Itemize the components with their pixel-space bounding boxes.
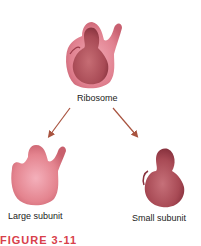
arrow-right-icon [113, 108, 136, 135]
arrow-left-icon [50, 108, 70, 135]
large-subunit-label: Large subunit [8, 211, 63, 221]
figure-caption: FIGURE 3-11 [0, 234, 77, 246]
small-subunit-illustration [140, 145, 188, 210]
small-subunit-label: Small subunit [132, 213, 186, 223]
large-subunit-illustration [8, 143, 70, 208]
